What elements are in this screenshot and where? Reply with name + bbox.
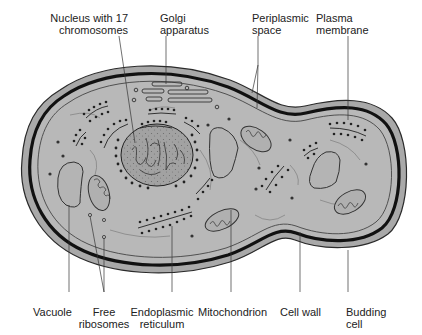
label-budding-cell: Budding cell: [346, 306, 386, 330]
label-plasma-membrane: Plasma membrane: [316, 12, 369, 36]
yeast-cell-diagram: [0, 0, 422, 335]
label-endoplasmic-reticulum: Endoplasmic reticulum: [130, 306, 194, 330]
label-free-ribosomes: Free ribosomes: [78, 306, 130, 330]
label-nucleus: Nucleus with 17 chromosomes: [40, 12, 128, 36]
vacuole-left: [58, 162, 83, 207]
label-periplasmic-space: Periplasmic space: [252, 12, 309, 36]
label-cell-wall: Cell wall: [280, 306, 321, 318]
label-golgi-apparatus: Golgi apparatus: [160, 12, 209, 36]
label-mitochondrion: Mitochondrion: [198, 306, 267, 318]
label-vacuole: Vacuole: [33, 306, 72, 318]
